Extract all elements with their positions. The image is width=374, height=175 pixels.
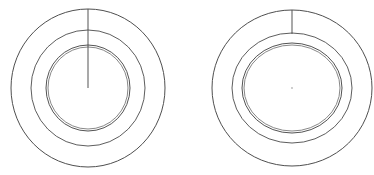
concentric-rings-figure-pair [0, 0, 374, 175]
left-concentric-ring-diagram [11, 9, 165, 167]
right-concentric-ring-diagram [212, 10, 372, 166]
diagram-canvas [0, 0, 374, 175]
right-center-dot [291, 87, 293, 89]
